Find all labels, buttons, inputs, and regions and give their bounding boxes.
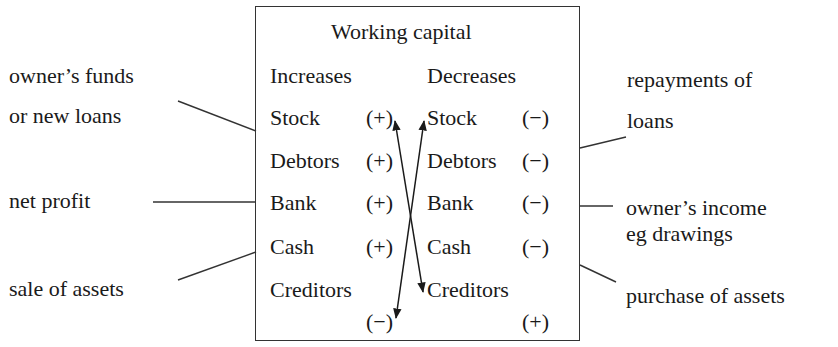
connector-repayments — [580, 137, 626, 148]
increase-item-debtors: Debtors — [270, 149, 340, 173]
decrease-sign-bank: (−) — [522, 191, 549, 215]
decrease-item-bank: Bank — [427, 191, 473, 215]
increase-sign-creditors: (−) — [366, 310, 393, 334]
connector-sale-of-assets — [178, 252, 256, 280]
diagram-title: Working capital — [331, 20, 472, 44]
connector-owners-funds — [178, 101, 256, 131]
arrow-stock-plus-to-creditors-plus — [395, 121, 423, 292]
increase-item-bank: Bank — [270, 191, 316, 215]
source-net-profit: net profit — [9, 189, 90, 213]
source-owners-funds-line1: owner’s funds — [9, 64, 134, 88]
increase-sign-stock: (+) — [366, 106, 393, 130]
use-owners-income-line2: eg drawings — [626, 222, 733, 246]
increase-item-creditors: Creditors — [270, 278, 352, 302]
decrease-item-debtors: Debtors — [427, 149, 497, 173]
increase-sign-debtors: (+) — [366, 149, 393, 173]
decrease-item-stock: Stock — [427, 106, 477, 130]
decreases-header: Decreases — [427, 64, 516, 88]
connector-purchase — [580, 265, 616, 282]
decrease-sign-stock: (−) — [522, 106, 549, 130]
use-owners-income-line1: owner’s income — [626, 196, 767, 220]
decrease-sign-creditors: (+) — [522, 310, 549, 334]
increases-header: Increases — [270, 64, 352, 88]
decrease-sign-cash: (−) — [522, 235, 549, 259]
use-repayments-line1: repayments of — [627, 68, 752, 92]
source-owners-funds-line2: or new loans — [9, 104, 121, 128]
increase-item-cash: Cash — [270, 235, 314, 259]
increase-sign-bank: (+) — [366, 191, 393, 215]
increase-item-stock: Stock — [270, 106, 320, 130]
use-purchase-of-assets: purchase of assets — [626, 284, 785, 308]
decrease-item-cash: Cash — [427, 235, 471, 259]
decrease-sign-debtors: (−) — [522, 149, 549, 173]
decrease-item-creditors: Creditors — [427, 278, 509, 302]
source-sale-of-assets: sale of assets — [9, 277, 124, 301]
increase-sign-cash: (+) — [366, 235, 393, 259]
use-repayments-line2: loans — [627, 109, 673, 133]
